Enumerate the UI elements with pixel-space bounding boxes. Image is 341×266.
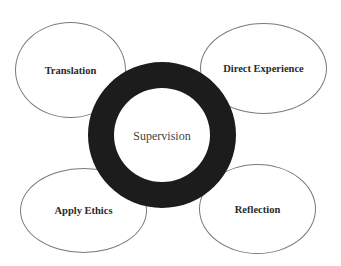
center-label: Supervision (133, 129, 190, 144)
node-label: Translation (45, 65, 97, 76)
node-label: Reflection (235, 204, 280, 215)
node-label: Apply Ethics (54, 205, 112, 216)
node-label: Direct Experience (223, 63, 304, 74)
